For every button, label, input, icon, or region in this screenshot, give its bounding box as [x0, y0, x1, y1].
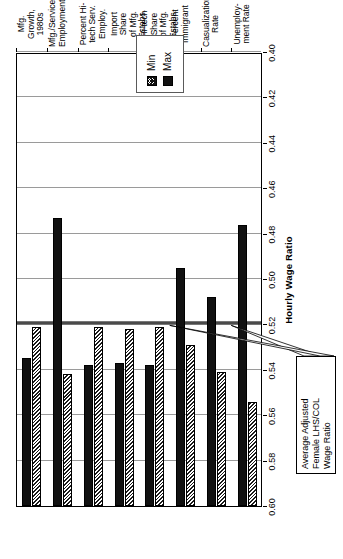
bar-max	[238, 225, 247, 506]
bar-max	[53, 218, 62, 506]
bar-max	[115, 363, 124, 506]
hatched-swatch-icon	[147, 76, 157, 86]
bar-min	[217, 372, 226, 506]
plot-area	[16, 53, 262, 507]
axis-tick-label: 0.40	[268, 44, 277, 62]
legend-item-min: Min	[147, 42, 157, 86]
bar-min	[248, 402, 257, 506]
category-label-line: Unemploy-	[233, 1, 243, 47]
category-label-line: 1980s	[36, 1, 46, 47]
bar-max	[207, 297, 216, 506]
category-label-line: Import Share	[110, 1, 129, 47]
axis-tick-label: 0.52	[268, 317, 277, 335]
category-label-line: Employment	[58, 1, 68, 47]
bar-min	[94, 327, 103, 506]
category-label: Mfg. Growth,1980s	[17, 1, 46, 47]
axis-tick-label: 0.48	[268, 226, 277, 244]
category-label-line: Mfg. Growth,	[17, 1, 36, 47]
axis-tick-label: 0.46	[268, 180, 277, 198]
axis-tick-label: 0.54	[268, 362, 277, 380]
bar-max	[84, 365, 93, 506]
legend-label-min: Min	[147, 55, 157, 71]
bar-group	[140, 54, 171, 506]
bar-group	[79, 54, 110, 506]
annotation-line-3: Wage Ratio	[322, 361, 333, 469]
bar-group	[202, 54, 233, 506]
category-label: Mfg./ServiceEmployment	[48, 1, 67, 47]
chart-legend: Min Max	[136, 35, 184, 93]
rotated-canvas: Unemploy-ment RateCasualizationRatePerce…	[0, 0, 343, 559]
category-label: Unemploy-ment Rate	[233, 1, 252, 47]
annotation-line-2: Female LHS/COL	[311, 361, 322, 469]
category-label-line: Casualization	[202, 1, 212, 47]
category-label-line: Employ.	[98, 1, 108, 47]
legend-item-max: Max	[163, 42, 173, 86]
category-label-line: Mfg./Service	[48, 1, 58, 47]
solid-swatch-icon	[163, 76, 173, 86]
value-axis-ticks: 0.600.580.560.540.520.500.480.460.440.42…	[263, 53, 275, 507]
axis-tick-label: 0.44	[268, 135, 277, 153]
bar-max	[22, 358, 31, 506]
category-label: Percent Hi-tech Serv.Employ.	[79, 1, 108, 47]
axis-tick-label: 0.56	[268, 407, 277, 425]
bar-min	[63, 374, 72, 506]
legend-label-max: Max	[163, 52, 173, 71]
bar-max	[176, 268, 185, 506]
axis-tick-label: 0.50	[268, 271, 277, 289]
category-label-line: ment Rate	[242, 1, 252, 47]
bar-min	[32, 327, 41, 506]
bar-min	[125, 329, 134, 506]
bar-min	[186, 345, 195, 506]
category-label-line: Percent Hi-	[79, 1, 89, 47]
annotation-callout: Average Adjusted Female LHS/COL Wage Rat…	[296, 356, 336, 474]
bar-group	[171, 54, 202, 506]
category-label: CasualizationRate	[202, 1, 221, 47]
bar-max	[145, 365, 154, 506]
axis-tick-label: 0.60	[268, 498, 277, 516]
axis-tick-label: 0.58	[268, 453, 277, 471]
bar-min	[155, 327, 164, 506]
bar-group	[48, 54, 79, 506]
bar-group	[232, 54, 263, 506]
value-axis-title: Hourly Wage Ratio	[283, 53, 294, 507]
category-label-line: tech Serv.	[88, 1, 98, 47]
category-label-line: Rate	[211, 1, 221, 47]
chart-figure: Unemploy-ment RateCasualizationRatePerce…	[0, 0, 343, 559]
annotation-line-1: Average Adjusted	[300, 361, 311, 469]
bar-group	[17, 54, 48, 506]
axis-tick-label: 0.42	[268, 90, 277, 108]
bar-group	[109, 54, 140, 506]
